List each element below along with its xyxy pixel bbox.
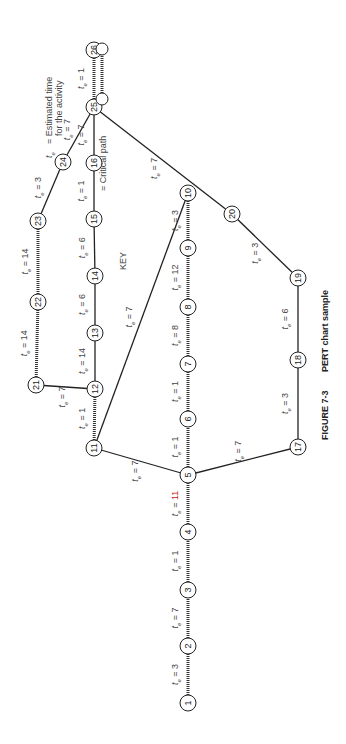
edge-label: te = 7 [130,461,142,482]
node-19: 19 [290,270,306,286]
node-label: 10 [183,188,193,198]
key-node-icon [96,93,108,105]
node-14: 14 [87,268,103,284]
node-6: 6 [180,411,196,427]
te-value: 6 [77,237,87,242]
node-8: 8 [180,299,196,315]
node-7: 7 [180,356,196,372]
svg-text:te = 3: te = 3 [33,177,45,198]
edge-label: te = 8 [170,325,182,346]
key-te-desc-line2: for the activity [54,80,64,136]
te-value: 14 [20,248,30,258]
te-value: 6 [280,308,290,313]
edge-label: te = 1 [170,436,182,457]
node-17: 17 [290,439,306,455]
edge-label: te = 1 [170,381,182,402]
edge-label: te = 3 [250,243,262,264]
caption-text: PERT chart sample [320,290,330,372]
node-label: 3 [183,587,193,592]
te-value: 11 [170,491,180,500]
edge-11-12 [94,389,95,448]
edge-label: te = 1 [77,408,89,429]
te-value: 7 [130,461,140,466]
te-value: 3 [33,177,43,182]
te-value: 7 [57,386,67,391]
te-value: 14 [19,330,29,340]
figure-caption: FIGURE 7-3 PERT chart sample [320,290,330,440]
node-label: 8 [183,304,193,309]
te-value: 12 [170,264,180,274]
node-label: 19 [293,273,303,283]
edge-label: te = 14 [19,330,31,356]
te-value: 1 [77,408,87,413]
node-21: 21 [28,377,44,393]
te-value: 1 [170,381,180,386]
node-label: 22 [33,297,43,307]
edge-label: te = 1 [76,180,88,201]
svg-text:te = 7: te = 7 [130,461,142,482]
node-label: 7 [183,361,193,366]
svg-text:te = 7: te = 7 [57,386,69,407]
node-22: 22 [30,294,46,310]
te-value: 1 [76,180,86,185]
svg-text:te = 14: te = 14 [19,330,31,356]
edge-14-15 [94,219,95,276]
te-value: 6 [77,294,87,299]
svg-text:te = 6: te = 6 [77,294,89,315]
key-node-icon [96,43,108,55]
svg-text:te = 6: te = 6 [77,237,89,258]
node-3: 3 [180,582,196,598]
node-15: 15 [86,211,102,227]
edge-label: te = 14 [20,248,32,274]
edge-label: te = 6 [77,294,89,315]
svg-text:te = 8: te = 8 [170,325,182,346]
te-value: 1 [170,550,180,555]
svg-text:te = 1: te = 1 [170,550,182,571]
node-18: 18 [290,352,306,368]
edge-label: te = 7 [170,607,182,628]
svg-text:te = 14: te = 14 [20,248,32,274]
node-24: 24 [55,154,71,170]
edge-label: te = 7 [124,306,136,327]
edge-label: te = 7 [233,441,245,462]
edge-5-17 [188,447,298,475]
key-te-desc-line1: = Estimated time [44,77,54,144]
edge-label: te = 7 [57,386,69,407]
node-1: 1 [180,695,196,711]
svg-text:te = 3: te = 3 [250,243,262,264]
svg-text:te = 3: te = 3 [170,664,182,685]
te-value: 3 [280,393,290,398]
nodes-layer: 1234567891011121314151617181920212223242… [28,42,306,711]
node-5: 5 [180,467,196,483]
te-value: 14 [77,348,87,358]
svg-text:te = 7: te = 7 [233,441,245,462]
svg-text:te = 1: te = 1 [170,381,182,402]
edge-label: te = 3 [33,177,45,198]
node-4: 4 [180,524,196,540]
svg-text:te = 11: te = 11 [170,491,182,516]
te-value: 1 [170,436,180,441]
pert-chart: te = 3te = 7te = 1te = 11te = 1te = 1te … [0,0,346,744]
node-label: 13 [90,328,100,338]
te-value: 7 [76,124,86,129]
svg-text:te = 6: te = 6 [280,308,292,329]
edge-label: te = 14 [77,348,89,374]
node-label: 11 [89,443,99,452]
caption-number: FIGURE 7-3 [320,390,330,440]
edge-label: te = 1 [76,68,88,89]
node-label: 20 [227,209,237,219]
node-label: 18 [293,355,303,365]
node-label: 4 [183,529,193,534]
key-te-symbol: te [44,151,56,158]
node-label: 1 [183,700,193,705]
node-2: 2 [180,638,196,654]
te-value: 7 [124,306,134,311]
node-label: 24 [58,157,68,167]
svg-text:te = 12: te = 12 [170,264,182,290]
node-12: 12 [87,381,103,397]
te-value: 3 [170,210,180,215]
node-23: 23 [30,213,46,229]
svg-text:te = 1: te = 1 [170,436,182,457]
node-label: 15 [89,214,99,224]
node-label: 17 [293,442,303,452]
